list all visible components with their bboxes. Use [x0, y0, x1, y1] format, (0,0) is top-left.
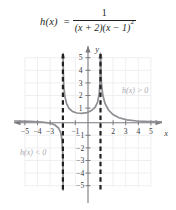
- denominator-factor-1: (x + 2): [75, 22, 103, 33]
- equals-sign: =: [64, 16, 70, 27]
- y-tick-label: 1: [79, 104, 83, 113]
- x-tick-labels: −5 −4 −3 −1 2 3 4 5: [21, 127, 153, 136]
- y-tick-label: −4: [76, 169, 84, 178]
- y-tick-label: 2: [79, 91, 83, 100]
- x-tick-label: −3: [46, 127, 54, 136]
- axes: [14, 46, 162, 203]
- positive-region-label: h(x) > 0: [122, 86, 148, 95]
- y-tick-label: −3: [76, 156, 84, 165]
- y-tick-labels: 5 4 3 2 1 −1 −2 −3 −4 −5: [76, 53, 84, 190]
- x-tick-label: 5: [149, 127, 153, 136]
- y-tick-label: −2: [76, 144, 84, 153]
- fraction: 1 (x + 2)(x − 1)2: [73, 8, 136, 33]
- x-axis-label: x: [163, 129, 168, 138]
- y-tick-label: 5: [79, 53, 83, 62]
- x-tick-label: 3: [124, 127, 128, 136]
- equation-left-side: h(x): [40, 16, 58, 27]
- x-tick-label: −4: [33, 127, 41, 136]
- denominator-factor-2: (x − 1): [103, 22, 131, 33]
- x-tick-label: 2: [111, 127, 115, 136]
- numerator: 1: [97, 8, 112, 20]
- y-axis-arrow-up: [85, 46, 90, 53]
- y-tick-label: 4: [79, 66, 83, 75]
- denominator-exponent: 2: [130, 18, 134, 26]
- y-tick-label: −5: [76, 181, 84, 190]
- x-tick-label: −5: [21, 127, 29, 136]
- y-tick-label: −1: [76, 131, 84, 140]
- y-axis-label: y: [94, 45, 99, 54]
- negative-region-label: h(x) < 0: [20, 148, 46, 157]
- rational-function-figure: h(x) = 1 (x + 2)(x − 1)2: [0, 0, 176, 210]
- function-equation: h(x) = 1 (x + 2)(x − 1)2: [0, 4, 176, 38]
- y-tick-label: 3: [79, 79, 83, 88]
- x-tick-label: 4: [136, 127, 140, 136]
- graph-plot: −5 −4 −3 −1 2 3 4 5 5 4 3 2 1 −1 −2 −3 −…: [0, 40, 176, 210]
- denominator: (x + 2)(x − 1)2: [73, 21, 136, 34]
